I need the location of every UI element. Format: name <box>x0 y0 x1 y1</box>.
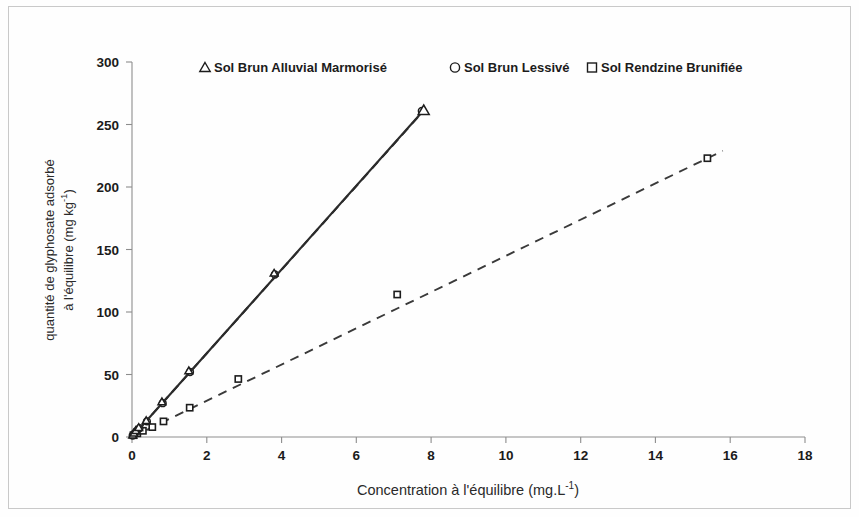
data-point-square <box>187 405 193 411</box>
data-point-square <box>235 376 241 382</box>
x-tick-label-4: 4 <box>278 448 286 463</box>
x-axis-ticks: 0 2 4 6 8 10 12 14 16 18 <box>128 437 813 463</box>
series-sol-rendzine-brunifiee <box>130 151 722 439</box>
legend-label-marmorise: Sol Brun Alluvial Marmorisé <box>214 60 387 75</box>
x-tick-label-8: 8 <box>427 448 435 463</box>
x-axis-title: Concentration à l'équilibre (mg.L-1) <box>357 480 579 498</box>
x-tick-label-16: 16 <box>723 448 739 463</box>
chart-legend: Sol Brun Alluvial Marmorisé Sol Brun Les… <box>200 60 743 75</box>
y-tick-label-0: 0 <box>111 430 119 445</box>
data-point-square <box>704 155 710 161</box>
legend-label-rendzine: Sol Rendzine Brunifiée <box>601 60 743 75</box>
y-axis-title-tail: ) <box>61 189 76 193</box>
y-axis-title-exponent: -1 <box>58 194 69 202</box>
y-axis-title: quantité de glyphosate adsorbé à l'équil… <box>42 159 76 340</box>
x-tick-label-14: 14 <box>648 448 664 463</box>
x-tick-label-18: 18 <box>797 448 813 463</box>
svg-text:Concentration à l'équilibre (m: Concentration à l'équilibre (mg.L-1) <box>357 480 579 498</box>
adsorption-isotherm-chart: 0 50 100 150 200 250 300 0 2 4 6 8 10 <box>0 0 859 517</box>
data-point-square <box>149 424 155 430</box>
x-tick-label-0: 0 <box>128 448 136 463</box>
legend-square-icon <box>588 63 597 72</box>
legend-label-lessive: Sol Brun Lessivé <box>464 60 569 75</box>
x-tick-label-6: 6 <box>353 448 361 463</box>
y-axis-title-line1: quantité de glyphosate adsorbé <box>42 159 57 340</box>
series-rendzine-fit-line <box>132 151 723 437</box>
y-tick-label-300: 300 <box>96 55 119 70</box>
data-point-square <box>394 291 400 297</box>
legend-circle-icon <box>450 63 459 72</box>
y-tick-label-200: 200 <box>96 180 119 195</box>
series-marmorise-fit-line <box>132 108 426 437</box>
axes <box>132 62 805 437</box>
y-tick-label-50: 50 <box>104 368 119 383</box>
data-point-triangle <box>185 367 193 374</box>
y-tick-label-250: 250 <box>96 118 119 133</box>
data-point-triangle <box>270 269 278 276</box>
legend-entry-lessive: Sol Brun Lessivé <box>450 60 569 75</box>
y-axis-ticks: 0 50 100 150 200 250 300 <box>96 55 132 445</box>
y-tick-label-100: 100 <box>96 305 119 320</box>
x-tick-label-10: 10 <box>498 448 513 463</box>
y-axis-title-line2: à l'équilibre (mg kg <box>61 202 76 311</box>
y-tick-label-150: 150 <box>96 243 119 258</box>
legend-entry-rendzine: Sol Rendzine Brunifiée <box>588 60 743 75</box>
series-sol-brun-alluvial-marmorise <box>129 105 429 438</box>
x-axis-title-text: Concentration à l'équilibre (mg.L <box>357 482 565 498</box>
x-tick-label-12: 12 <box>573 448 588 463</box>
svg-text:quantité de glyphosate adsorbé: quantité de glyphosate adsorbé <box>42 159 57 340</box>
legend-entry-marmorise: Sol Brun Alluvial Marmorisé <box>200 60 387 75</box>
svg-text:à l'équilibre (mg kg-1): à l'équilibre (mg kg-1) <box>58 189 76 311</box>
legend-triangle-icon <box>200 63 210 72</box>
x-tick-label-2: 2 <box>203 448 211 463</box>
data-point-square <box>160 418 166 424</box>
x-axis-title-tail: ) <box>574 482 579 498</box>
figure-page: 0 50 100 150 200 250 300 0 2 4 6 8 10 <box>0 0 859 517</box>
